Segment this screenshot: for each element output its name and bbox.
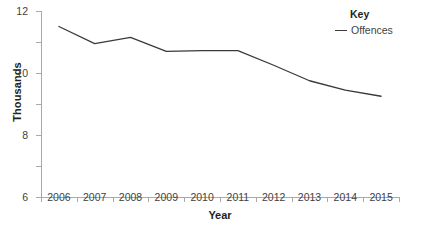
legend-line-swatch [335,30,347,31]
legend-title: Key [350,8,393,20]
y-tick-label: 12 [16,5,28,17]
x-tick-label: 2013 [298,191,321,203]
x-tick-label: 2006 [47,191,70,203]
x-tick [399,197,400,202]
x-tick [184,197,185,202]
x-tick [41,197,42,202]
series-line-offences [59,27,381,97]
x-tick [220,197,221,202]
legend-item-offences[interactable]: Offences [335,24,393,36]
y-axis-title: Thousands [11,47,23,137]
x-tick-label: 2014 [334,191,357,203]
x-tick-label: 2011 [227,191,250,203]
x-tick-label: 2015 [369,191,392,203]
x-tick [77,197,78,202]
x-tick [363,197,364,202]
x-tick-label: 2009 [155,191,178,203]
x-tick-label: 2007 [83,191,106,203]
x-tick-label: 2012 [262,191,285,203]
legend-item-label: Offences [351,24,393,36]
plot-area: 024681012 [41,11,399,197]
legend: Key Offences [335,8,393,36]
x-tick [148,197,149,202]
x-tick [256,197,257,202]
x-tick [327,197,328,202]
x-tick [292,197,293,202]
x-tick-label: 2008 [119,191,142,203]
x-tick-label: 2010 [190,191,213,203]
x-axis-title: Year [41,209,399,221]
y-tick-label: 8 [22,129,28,141]
x-tick [113,197,114,202]
y-tick-label: 6 [22,191,28,203]
series-layer [41,11,399,197]
y-tick-label: 10 [16,67,28,79]
line-chart: Thousands 024681012 20062007200820092010… [0,0,425,230]
